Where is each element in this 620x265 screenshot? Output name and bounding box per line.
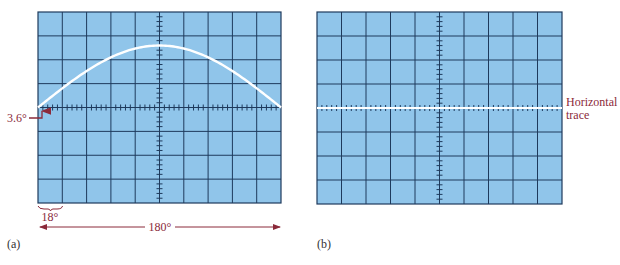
caption-b: (b) — [317, 237, 331, 251]
start-offset-annotation: 3.6° — [7, 111, 42, 125]
oscilloscope-screen-a — [38, 12, 281, 203]
trace-label-line2: trace — [566, 108, 589, 122]
oscilloscope-figure: 3.6° 18° 180° (a) Horizontal trace (b) — [0, 0, 620, 265]
oscilloscope-screen-b — [317, 12, 562, 204]
division-annotation: 18° — [38, 206, 63, 224]
start-offset-label: 3.6° — [7, 111, 27, 125]
span-label: 180° — [149, 220, 172, 234]
trace-label-line1: Horizontal — [566, 95, 618, 109]
caption-a: (a) — [7, 237, 20, 251]
span-annotation: 180° — [40, 220, 280, 234]
division-label: 18° — [42, 210, 59, 224]
